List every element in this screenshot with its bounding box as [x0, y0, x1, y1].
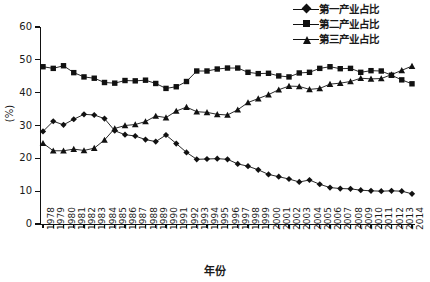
x-tick-label: 2004	[314, 207, 323, 230]
x-tick-label: 2007	[344, 207, 353, 230]
data-point	[245, 99, 252, 105]
x-tick-label: 1988	[150, 207, 159, 230]
data-point	[122, 122, 129, 128]
x-tick-label: 1993	[201, 207, 210, 230]
data-point	[70, 146, 77, 152]
x-tick	[350, 224, 351, 228]
data-point	[337, 80, 344, 86]
x-tick	[135, 224, 136, 228]
data-point	[194, 68, 199, 73]
x-tick	[401, 224, 402, 228]
x-tick-label: 1989	[160, 207, 169, 230]
data-point	[234, 106, 241, 112]
data-point	[245, 163, 251, 169]
x-tick-label: 1997	[242, 207, 251, 230]
x-tick-label: 2001	[283, 207, 292, 230]
series-square	[40, 63, 414, 91]
x-tick	[258, 224, 259, 228]
x-tick	[186, 224, 187, 228]
x-tick	[227, 224, 228, 228]
data-point	[357, 75, 364, 81]
x-tick	[114, 224, 115, 228]
x-tick	[53, 224, 54, 228]
series-diamond	[40, 111, 415, 197]
data-point	[306, 86, 313, 92]
y-tick-label: 0	[6, 219, 32, 229]
x-tick-label: 1984	[109, 207, 118, 230]
x-tick-label: 2008	[355, 207, 364, 230]
x-tick-label: 1994	[211, 207, 220, 230]
data-point	[142, 118, 149, 124]
legend-item-primary-industry: 第一产业占比	[293, 2, 428, 17]
x-tick	[309, 224, 310, 228]
data-point	[102, 80, 107, 85]
data-point	[91, 112, 97, 118]
data-point	[163, 114, 170, 120]
data-point	[91, 145, 98, 151]
data-point	[296, 83, 303, 89]
x-tick-label: 1987	[139, 207, 148, 230]
data-point	[214, 156, 220, 162]
data-point	[111, 125, 118, 131]
y-axis-line	[40, 27, 41, 224]
data-point	[296, 179, 302, 185]
data-point	[338, 66, 343, 71]
data-point	[337, 185, 343, 191]
data-point	[152, 113, 159, 119]
data-point	[225, 65, 230, 70]
data-point	[61, 63, 66, 68]
data-point	[409, 63, 416, 69]
data-point	[275, 86, 282, 92]
y-axis-title: (%)	[4, 105, 15, 122]
x-tick	[73, 224, 74, 228]
data-point	[255, 167, 261, 173]
data-point	[266, 71, 271, 76]
data-point	[255, 95, 262, 101]
data-point	[306, 177, 312, 183]
x-tick	[247, 224, 248, 228]
data-point	[316, 85, 323, 91]
data-point	[142, 137, 148, 143]
data-point	[204, 68, 209, 73]
chart-legend: 第一产业占比 第二产业占比 第三产业占比	[293, 2, 428, 47]
y-tick	[35, 191, 40, 192]
data-point	[224, 112, 231, 118]
data-point	[214, 111, 221, 117]
x-tick	[63, 224, 64, 228]
x-tick-label: 1998	[252, 207, 261, 230]
data-point	[286, 74, 291, 79]
data-point	[276, 73, 281, 78]
data-point	[327, 184, 333, 190]
data-point	[132, 121, 139, 127]
y-tick	[35, 125, 40, 126]
x-tick	[145, 224, 146, 228]
data-point	[368, 68, 373, 73]
data-point	[143, 77, 148, 82]
x-tick-label: 2009	[365, 207, 374, 230]
data-point	[388, 71, 395, 77]
x-tick-label: 1982	[88, 207, 97, 230]
data-point	[183, 104, 190, 110]
x-tick	[381, 224, 382, 228]
data-point	[204, 109, 211, 115]
data-point	[112, 128, 118, 134]
data-point	[245, 70, 250, 75]
x-tick	[391, 224, 392, 228]
data-point	[81, 74, 86, 79]
data-point	[409, 191, 415, 197]
data-point	[276, 174, 282, 180]
series-triangle	[40, 63, 416, 154]
x-tick-label: 2014	[416, 207, 425, 230]
data-point	[60, 122, 66, 128]
data-point	[50, 118, 56, 124]
x-tick	[360, 224, 361, 228]
x-tick-label: 1983	[98, 207, 107, 230]
data-point	[224, 156, 230, 162]
data-point	[193, 108, 200, 114]
data-point	[399, 77, 404, 82]
data-point	[347, 186, 353, 192]
data-point	[399, 188, 405, 194]
data-point	[307, 70, 312, 75]
data-point	[133, 78, 138, 83]
x-tick	[206, 224, 207, 228]
